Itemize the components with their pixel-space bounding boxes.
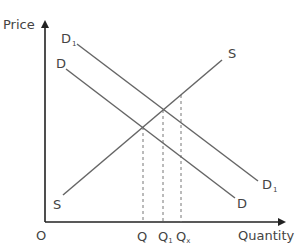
d1-top-label: D1 xyxy=(61,31,76,48)
d1-bottom-label: D1 xyxy=(262,177,277,194)
d-top-label: D xyxy=(56,56,66,71)
q-tick-label: Q xyxy=(137,229,147,244)
demand-curve-d xyxy=(66,69,235,198)
y-axis-label: Price xyxy=(3,17,35,32)
x-axis-label: Quantity xyxy=(238,228,294,243)
origin-label: O xyxy=(36,228,46,243)
d-bottom-label: D xyxy=(237,196,247,211)
supply-demand-chart: Price Quantity O D1 D S S D D1 Q Q1 Qx xyxy=(0,0,295,252)
q1-tick-label: Q1 xyxy=(158,229,173,245)
s-bottom-label: S xyxy=(53,197,61,212)
qx-tick-label: Qx xyxy=(176,229,190,245)
s-top-label: S xyxy=(228,46,236,61)
supply-curve-s xyxy=(63,60,222,195)
